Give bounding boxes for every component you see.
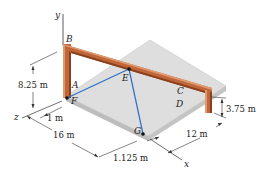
label-d: D: [175, 99, 183, 109]
x-axis: [150, 139, 182, 160]
svg-text:3.75 m: 3.75 m: [226, 104, 256, 114]
label-f: F: [70, 96, 78, 106]
svg-text:8.25 m: 8.25 m: [18, 80, 48, 90]
label-e: E: [121, 73, 129, 83]
dim-1: 1 m: [40, 107, 63, 123]
svg-text:16 m: 16 m: [53, 130, 75, 140]
dim-8-25: 8.25 m: [18, 52, 57, 108]
frame-cable-diagram: y B E A F G C D z x 8.25 m 1 m 16 m 1.12…: [0, 0, 264, 175]
dim-1-125: 1.125 m: [99, 141, 148, 163]
frame-post-cd: [205, 90, 212, 113]
dim-3-75: 3.75 m: [212, 97, 256, 118]
svg-text:1 m: 1 m: [47, 113, 63, 123]
svg-text:12 m: 12 m: [186, 129, 208, 139]
point-f: [65, 96, 69, 100]
label-y: y: [54, 10, 61, 20]
svg-text:1.125 m: 1.125 m: [113, 153, 148, 163]
label-b: B: [65, 34, 73, 44]
label-z: z: [13, 112, 19, 122]
point-g: [141, 132, 145, 136]
label-c: C: [177, 86, 184, 96]
label-g: G: [134, 126, 141, 136]
label-a: A: [71, 80, 79, 90]
frame-post-ab: [63, 44, 71, 98]
point-e: [127, 67, 131, 71]
label-x: x: [184, 159, 189, 169]
